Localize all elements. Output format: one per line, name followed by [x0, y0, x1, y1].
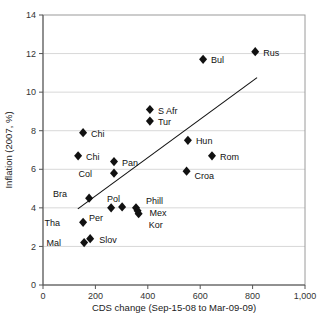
point-label: Rom — [220, 152, 239, 162]
y-tick-label-8: 8 — [31, 126, 36, 136]
data-point: Slov — [86, 234, 117, 245]
marker-diamond — [146, 105, 154, 114]
chart-page: 0246810121402004006008001,000 RusBulS Af… — [0, 0, 322, 320]
point-label: Slov — [99, 235, 117, 245]
point-label: Chi — [91, 129, 105, 139]
y-tick-label-0: 0 — [31, 280, 36, 290]
marker-diamond — [183, 167, 191, 176]
data-point: Tha — [45, 218, 88, 229]
point-label: Kor — [149, 220, 163, 230]
data-point: Col — [78, 169, 118, 180]
point-label: Croa — [195, 171, 215, 181]
point-label: Bra — [53, 189, 67, 199]
axis-titles: CDS change (Sep-15-08 to Mar-09-09)Infla… — [3, 111, 256, 313]
marker-diamond — [79, 218, 87, 227]
y-tick-label-2: 2 — [31, 242, 36, 252]
marker-diamond — [184, 136, 192, 145]
data-point: S Afr — [146, 105, 178, 116]
x-axis-title: CDS change (Sep-15-08 to Mar-09-09) — [92, 302, 256, 313]
point-label: Tur — [158, 117, 171, 127]
marker-diamond — [146, 116, 154, 125]
x-tick-label-0: 0 — [40, 291, 45, 301]
marker-diamond — [85, 194, 93, 203]
y-axis-title: Inflation (2007, %) — [3, 111, 14, 188]
point-label: Col — [78, 169, 92, 179]
point-label: Bul — [211, 55, 224, 65]
y-tick-label-10: 10 — [26, 87, 36, 97]
point-label: Per — [89, 213, 103, 223]
point-label: Mal — [47, 238, 62, 248]
point-label: Pol — [107, 194, 120, 204]
y-tick-label-6: 6 — [31, 164, 36, 174]
data-point: Rus — [251, 47, 280, 58]
trend-line-segment — [78, 78, 257, 209]
y-tick-label-4: 4 — [31, 203, 36, 213]
x-tick-label-400: 400 — [140, 291, 155, 301]
data-point: Pan — [110, 157, 138, 168]
data-point: Hun — [184, 136, 213, 147]
gridlines — [43, 54, 305, 247]
data-point: Bul — [199, 55, 224, 66]
marker-diamond — [199, 55, 207, 64]
marker-diamond — [74, 151, 82, 160]
point-label: Hun — [196, 136, 213, 146]
x-tick-label-600: 600 — [193, 291, 208, 301]
point-label: Phill — [146, 196, 163, 206]
point-label: Pan — [122, 158, 138, 168]
data-point: Bra — [53, 189, 93, 203]
marker-diamond — [107, 203, 115, 212]
x-tick-label-800: 800 — [245, 291, 260, 301]
data-point: Rom — [208, 151, 239, 162]
trend-line — [78, 78, 257, 209]
point-label: Chi — [86, 152, 100, 162]
x-tick-label-200: 200 — [88, 291, 103, 301]
x-tick-label-1000: 1,000 — [294, 291, 317, 301]
y-tick-label-14: 14 — [26, 10, 36, 20]
marker-diamond — [79, 128, 87, 137]
data-point: Per — [89, 203, 115, 223]
point-label: Tha — [45, 218, 61, 228]
point-label: Rus — [263, 48, 280, 58]
point-label: S Afr — [158, 106, 178, 116]
marker-diamond — [251, 47, 259, 56]
y-tick-label-12: 12 — [26, 49, 36, 59]
scatter-chart: 0246810121402004006008001,000 RusBulS Af… — [0, 0, 322, 320]
data-point: Chi — [74, 151, 100, 162]
marker-diamond — [110, 169, 118, 178]
marker-diamond — [208, 151, 216, 160]
point-label: Mex — [150, 208, 168, 218]
data-point: Tur — [146, 116, 171, 127]
data-point: Chi — [79, 128, 105, 139]
marker-diamond — [110, 157, 118, 166]
